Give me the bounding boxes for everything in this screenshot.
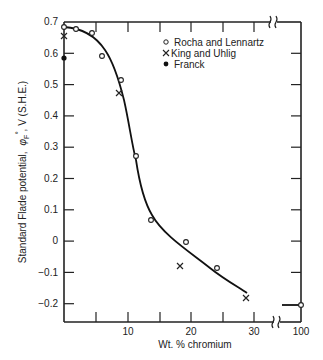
svg-text:0.5: 0.5: [44, 79, 58, 90]
svg-text:0.6: 0.6: [44, 48, 58, 59]
x-ticks-top: [96, 22, 254, 32]
axis-break-bottom: [272, 316, 280, 328]
y-tick-labels: 0.7 0.6 0.5 0.4 0.3 0.2 0.1 0 −0.1 −0.2: [38, 16, 58, 309]
y-axis-label: Standard Flade potential,φF°, V (S.H.E.): [14, 81, 30, 263]
x-axis-label: Wt. % chromium: [158, 339, 231, 350]
legend: Rocha and Lennartz King and Uhlig Franck: [163, 37, 264, 70]
y-ticks-left: [64, 53, 74, 303]
svg-text:−0.2: −0.2: [38, 298, 58, 309]
axis-break-top: [269, 16, 277, 28]
svg-text:0.4: 0.4: [44, 110, 58, 121]
legend-filled-circle-icon: [164, 62, 169, 67]
svg-text:−0.1: −0.1: [38, 267, 58, 278]
svg-text:King and Uhlig: King and Uhlig: [171, 48, 236, 59]
legend-cross-icon: [163, 50, 169, 56]
x-ticks-bottom: [96, 312, 254, 322]
svg-text:Rocha and Lennartz: Rocha and Lennartz: [174, 37, 264, 48]
y-ticks-right: [291, 53, 301, 272]
svg-text:10: 10: [122, 326, 134, 337]
svg-text:0: 0: [52, 235, 58, 246]
svg-text:0.3: 0.3: [44, 141, 58, 152]
flade-potential-chart: 0.7 0.6 0.5 0.4 0.3 0.2 0.1 0 −0.1 −0.2 …: [0, 0, 323, 360]
svg-text:0.1: 0.1: [44, 204, 58, 215]
svg-text:30: 30: [248, 326, 260, 337]
fit-curve: [64, 27, 247, 293]
series-franck: [61, 55, 66, 60]
legend-open-circle-icon: [164, 40, 168, 44]
svg-text:Franck: Franck: [174, 59, 206, 70]
x-tick-labels: 10 20 30 100: [122, 326, 309, 337]
svg-text:20: 20: [185, 326, 197, 337]
svg-text:0.7: 0.7: [44, 16, 58, 27]
svg-text:100: 100: [293, 326, 310, 337]
svg-text:0.2: 0.2: [44, 173, 58, 184]
series-king-uhlig: [61, 33, 249, 301]
